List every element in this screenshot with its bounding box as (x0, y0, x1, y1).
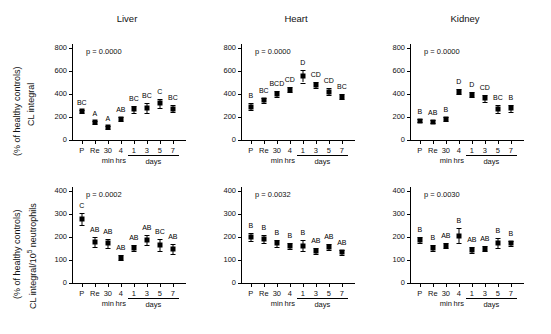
significance-label-liver-row2-0: C (79, 202, 84, 209)
data-point-kidney-row1-2 (443, 117, 448, 122)
data-point-heart-row2-2 (274, 241, 279, 246)
significance-label-liver-row2-6: BC (155, 228, 165, 235)
y-tick-label-liver-row1-0: 0 (38, 135, 67, 144)
y-tick-liver-row2-200 (69, 237, 72, 238)
x-axis-liver-row1 (72, 140, 186, 141)
y-tick-label-liver-row1-400: 400 (38, 89, 67, 98)
y-tick-label-kidney-row1-400: 400 (376, 89, 405, 98)
error-bar-cap-bottom-liver-row2-7 (170, 254, 175, 255)
x-tick-kidney-row1-5 (485, 141, 486, 144)
x-unit-label-days-liver-row2: days (137, 300, 169, 309)
x-tick-heart-row1-0 (251, 141, 252, 144)
panel-title-liver: Liver (103, 13, 151, 24)
significance-label-heart-row1-1: BC (259, 87, 269, 94)
p-value-annotation-liver-row2: p = 0.0002 (86, 190, 122, 199)
significance-label-kidney-row2-5: AB (480, 235, 489, 242)
error-bar-cap-top-kidney-row2-3 (456, 228, 461, 229)
x-tick-liver-row1-3 (121, 141, 122, 144)
error-bar-cap-top-liver-row1-6 (157, 99, 162, 100)
error-bar-cap-bottom-heart-row2-6 (326, 250, 331, 251)
data-point-kidney-row2-4 (469, 248, 474, 253)
x-tick-liver-row1-0 (82, 141, 83, 144)
error-bar-cap-bottom-liver-row2-2 (105, 248, 110, 249)
panel-title-heart: Heart (272, 13, 320, 24)
x-tick-label-liver-row2-7: 7 (162, 289, 184, 298)
significance-label-kidney-row2-6: B (496, 227, 501, 234)
data-point-kidney-row1-7 (508, 106, 513, 111)
y-tick-heart-row1-800 (238, 48, 241, 49)
data-point-liver-row1-3 (118, 117, 123, 122)
y-axis-liver-row1 (72, 44, 73, 140)
error-bar-cap-top-liver-row2-7 (170, 244, 175, 245)
data-point-heart-row2-0 (248, 235, 253, 240)
x-unit-label-hrs-heart-row1: hrs (278, 156, 302, 165)
x-unit-label-hrs-kidney-row2: hrs (447, 299, 471, 308)
y-tick-label-heart-row2-300: 300 (207, 209, 236, 218)
data-point-kidney-row1-3 (456, 89, 461, 94)
significance-label-liver-row2-4: AB (129, 234, 138, 241)
x-tick-liver-row2-1 (95, 284, 96, 287)
data-point-liver-row1-6 (157, 101, 162, 106)
y-tick-heart-row2-0 (238, 283, 241, 284)
significance-label-kidney-row1-0: B (417, 108, 422, 115)
x-tick-kidney-row2-7 (511, 284, 512, 287)
significance-label-heart-row2-2: B (274, 229, 279, 236)
error-bar-cap-bottom-heart-row1-0 (248, 110, 253, 111)
data-point-heart-row1-2 (274, 92, 279, 97)
data-point-liver-row1-1 (92, 120, 97, 125)
x-tick-heart-row1-2 (277, 141, 278, 144)
error-bar-cap-top-liver-row2-5 (144, 235, 149, 236)
x-tick-liver-row2-3 (121, 284, 122, 287)
x-unit-label-days-heart-row1: days (306, 157, 338, 166)
x-axis-heart-row2 (241, 283, 355, 284)
y-tick-kidney-row1-400 (407, 94, 410, 95)
days-group-rule-kidney-row1 (466, 155, 517, 156)
significance-label-kidney-row1-2: B (443, 106, 448, 113)
y-tick-liver-row1-800 (69, 48, 72, 49)
x-tick-liver-row1-7 (173, 141, 174, 144)
y-tick-heart-row2-200 (238, 237, 241, 238)
y-tick-label-heart-row2-200: 200 (207, 232, 236, 241)
data-point-liver-row2-0 (79, 217, 84, 222)
significance-label-kidney-row2-7: B (509, 230, 514, 237)
x-tick-liver-row2-7 (173, 284, 174, 287)
significance-label-liver-row2-2: AB (103, 228, 112, 235)
x-tick-kidney-row2-6 (498, 284, 499, 287)
x-tick-heart-row2-2 (277, 284, 278, 287)
x-tick-liver-row1-1 (95, 141, 96, 144)
x-tick-kidney-row1-0 (420, 141, 421, 144)
y-tick-label-heart-row1-400: 400 (207, 89, 236, 98)
y-tick-kidney-row1-800 (407, 48, 410, 49)
error-bar-cap-top-liver-row1-5 (144, 103, 149, 104)
error-bar-cap-bottom-heart-row1-5 (313, 88, 318, 89)
error-bar-cap-bottom-liver-row2-3 (118, 260, 123, 261)
error-bar-cap-bottom-heart-row1-7 (339, 99, 344, 100)
y-tick-label-heart-row1-600: 600 (207, 66, 236, 75)
x-tick-liver-row2-4 (134, 284, 135, 287)
error-bar-cap-bottom-liver-row2-5 (144, 245, 149, 246)
significance-label-heart-row2-7: AB (337, 239, 346, 246)
significance-label-heart-row2-0: B (248, 222, 253, 229)
x-tick-heart-row2-0 (251, 284, 252, 287)
significance-label-liver-row2-3: AB (116, 244, 125, 251)
x-tick-heart-row1-4 (303, 141, 304, 144)
x-axis-heart-row1 (241, 140, 355, 141)
p-value-annotation-liver-row1: p = 0.0000 (86, 47, 122, 56)
data-point-kidney-row2-0 (417, 238, 422, 243)
y-tick-kidney-row1-200 (407, 117, 410, 118)
y-tick-kidney-row1-600 (407, 71, 410, 72)
y-tick-heart-row1-0 (238, 140, 241, 141)
significance-label-heart-row1-4: D (300, 59, 305, 66)
x-tick-kidney-row1-3 (459, 141, 460, 144)
x-unit-label-hrs-heart-row2: hrs (278, 299, 302, 308)
days-group-rule-liver-row2 (128, 298, 179, 299)
y-tick-label-liver-row2-300: 300 (38, 209, 67, 218)
error-bar-cap-top-liver-row2-0 (79, 213, 84, 214)
y-axis-caption-row2: CL integral/105 neutrophils (26, 203, 38, 309)
data-point-kidney-row1-0 (417, 118, 422, 123)
y-tick-label-kidney-row1-200: 200 (376, 112, 405, 121)
y-tick-label-kidney-row1-0: 0 (376, 135, 405, 144)
y-axis-heart-row2 (241, 187, 242, 283)
significance-label-heart-row1-3: CD (285, 76, 295, 83)
data-point-liver-row2-3 (118, 255, 123, 260)
